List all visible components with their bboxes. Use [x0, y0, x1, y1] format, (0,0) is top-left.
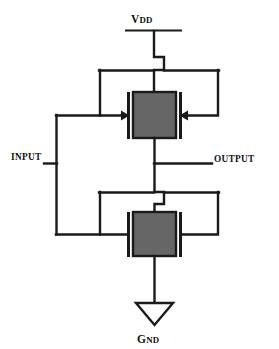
- gnd-label-trail: ND: [146, 335, 159, 345]
- vdd-label-trail: DD: [140, 15, 153, 25]
- output-net-wire: [155, 138, 165, 212]
- gnd-label: GND: [137, 330, 159, 346]
- pmos-left-gate-wire: [100, 70, 125, 116]
- schematic-svg: [0, 0, 279, 349]
- vdd-label-lead: V: [131, 13, 140, 25]
- ground-triangle-icon: [136, 303, 173, 325]
- nmos-right-gate-wire: [183, 192, 218, 235]
- vdd-drop-wire: [154, 31, 164, 92]
- vdd-label: VDD: [131, 10, 153, 26]
- circuit-diagram-canvas: VDD GND INPUT OUTPUT: [0, 0, 279, 349]
- output-label: OUTPUT: [214, 155, 255, 164]
- pmos-body-rect: [133, 92, 176, 138]
- pmos-right-gate-wire: [184, 70, 218, 116]
- nmos-left-gate-wire: [100, 192, 126, 235]
- nmos-body-rect: [133, 212, 176, 256]
- gnd-label-lead: G: [137, 333, 146, 345]
- input-label: INPUT: [11, 153, 41, 162]
